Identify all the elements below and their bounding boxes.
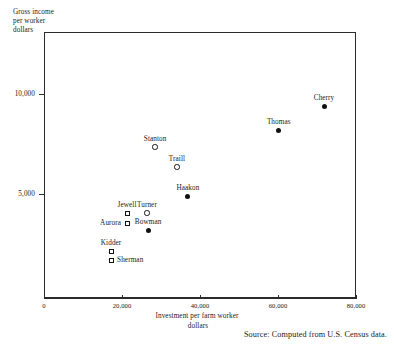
data-point-label-turner: Turner bbox=[137, 201, 157, 209]
data-point-label-bowman: Bowman bbox=[135, 218, 162, 226]
x-tick-label-0: 0 bbox=[22, 302, 66, 309]
marker-circle-open-icon bbox=[152, 144, 157, 149]
y-tick-label-10000: 10,000 bbox=[1, 90, 35, 98]
marker-circle-filled-icon bbox=[185, 194, 190, 199]
marker-circle-filled-icon bbox=[276, 128, 281, 133]
data-point-label-kidder: Kidder bbox=[101, 239, 122, 247]
y-tick-5000 bbox=[39, 194, 44, 195]
x-tick-label-40000: 40,000 bbox=[178, 302, 222, 309]
marker-circle-filled-icon bbox=[322, 104, 327, 109]
marker-circle-open-icon bbox=[144, 210, 149, 215]
data-point-label-stanton: Stanton bbox=[144, 135, 167, 143]
x-axis-caption: Investment per farm worker dollars bbox=[0, 312, 394, 331]
data-point-label-sherman: Sherman bbox=[117, 256, 143, 264]
data-point-label-aurora: Aurora bbox=[100, 219, 121, 227]
marker-square-open-icon bbox=[109, 249, 114, 254]
y-tick-10000 bbox=[39, 94, 44, 95]
x-tick-60000 bbox=[278, 295, 279, 299]
data-point-label-traill: Traill bbox=[169, 155, 185, 163]
x-tick-label-60000: 60,000 bbox=[256, 302, 300, 309]
data-point-label-haakon: Haakon bbox=[176, 184, 199, 192]
marker-square-open-icon bbox=[125, 221, 130, 226]
x-axis-caption-line-1: Investment per farm worker bbox=[0, 312, 394, 322]
x-tick-80000 bbox=[356, 295, 357, 299]
source-note: Source: Computed from U.S. Census data. bbox=[244, 330, 387, 339]
data-point-label-cherry: Cherry bbox=[314, 94, 335, 102]
x-tick-label-80000: 80,000 bbox=[334, 302, 378, 309]
marker-circle-filled-icon bbox=[146, 228, 151, 233]
x-tick-label-20000: 20,000 bbox=[100, 302, 144, 309]
y-axis-caption-line-2: per worker bbox=[13, 17, 54, 26]
y-tick-label-5000: 5,000 bbox=[1, 190, 35, 198]
marker-circle-open-icon bbox=[174, 164, 179, 169]
y-axis-caption-line-1: Gross income bbox=[13, 8, 54, 17]
y-axis-spine bbox=[44, 32, 45, 299]
x-tick-20000 bbox=[122, 295, 123, 299]
data-point-label-thomas: Thomas bbox=[267, 118, 291, 126]
data-point-label-jewell: Jewell bbox=[118, 201, 137, 209]
scatter-plot-figure: Gross income per worker dollars 10,000 5… bbox=[0, 0, 394, 345]
marker-square-open-icon bbox=[125, 211, 130, 216]
marker-square-open-icon bbox=[109, 258, 114, 263]
x-tick-0 bbox=[44, 295, 45, 299]
x-tick-40000 bbox=[200, 295, 201, 299]
plot-area-frame bbox=[44, 32, 356, 298]
